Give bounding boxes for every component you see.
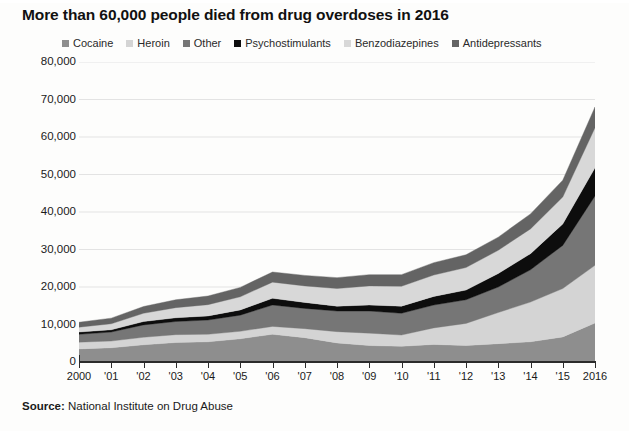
legend-label: Other xyxy=(194,37,222,49)
x-axis-tick xyxy=(79,362,80,368)
x-axis-tick-label: '02 xyxy=(136,370,150,382)
x-axis-tick-label: '12 xyxy=(459,370,473,382)
legend-item-antidepressants[interactable]: Antidepressants xyxy=(452,37,542,49)
y-axis-tick-label: 60,000 xyxy=(18,131,76,143)
source-note: Source: National Institute on Drug Abuse xyxy=(22,400,233,412)
x-axis-tick-label: '07 xyxy=(298,370,312,382)
stacked-area-svg xyxy=(79,62,595,362)
x-axis-tick-label: '05 xyxy=(233,370,247,382)
chart-legend: CocaineHeroinOtherPsychostimulantsBenzod… xyxy=(62,37,542,49)
legend-label: Psychostimulants xyxy=(245,37,331,49)
x-axis-tick-label: '11 xyxy=(427,370,441,382)
legend-item-benzodiazepines[interactable]: Benzodiazepines xyxy=(344,37,439,49)
legend-label: Cocaine xyxy=(73,37,113,49)
plot-area xyxy=(79,62,595,362)
legend-swatch-icon xyxy=(452,40,459,47)
x-axis-tick xyxy=(144,362,145,368)
source-text: National Institute on Drug Abuse xyxy=(65,400,233,412)
x-axis-tick xyxy=(498,362,499,368)
legend-label: Heroin xyxy=(137,37,169,49)
x-axis-tick xyxy=(369,362,370,368)
x-axis: 2000'01'02'03'04'05'06'07'08'09'10'11'12… xyxy=(79,362,595,388)
y-axis-tick-label: 10,000 xyxy=(18,319,76,331)
x-axis-tick-label: 2016 xyxy=(583,370,607,382)
x-axis-tick-label: '13 xyxy=(491,370,505,382)
x-axis-tick xyxy=(563,362,564,368)
x-axis-tick xyxy=(273,362,274,368)
y-axis-tick-label: 70,000 xyxy=(18,94,76,106)
legend-swatch-icon xyxy=(344,40,351,47)
legend-swatch-icon xyxy=(234,40,241,47)
area-series-group xyxy=(79,107,595,362)
legend-item-heroin[interactable]: Heroin xyxy=(126,37,169,49)
legend-label: Antidepressants xyxy=(463,37,542,49)
x-axis-tick xyxy=(595,362,596,368)
x-axis-tick xyxy=(531,362,532,368)
source-label: Source: xyxy=(22,400,65,412)
x-axis-tick xyxy=(176,362,177,368)
legend-swatch-icon xyxy=(183,40,190,47)
x-axis-tick xyxy=(208,362,209,368)
y-axis: 010,00020,00030,00040,00050,00060,00070,… xyxy=(10,0,76,431)
x-axis-tick-label: '10 xyxy=(394,370,408,382)
x-axis-tick xyxy=(402,362,403,368)
x-axis-tick xyxy=(466,362,467,368)
x-axis-tick-label: '03 xyxy=(169,370,183,382)
top-rule xyxy=(0,0,629,3)
x-axis-tick-label: '15 xyxy=(556,370,570,382)
y-axis-tick-label: 80,000 xyxy=(18,56,76,68)
x-axis-tick xyxy=(240,362,241,368)
y-axis-tick-label: 0 xyxy=(18,356,76,368)
chart-figure: More than 60,000 people died from drug o… xyxy=(0,0,629,431)
x-axis-tick xyxy=(305,362,306,368)
legend-item-psychostimulants[interactable]: Psychostimulants xyxy=(234,37,331,49)
legend-item-other[interactable]: Other xyxy=(183,37,222,49)
y-axis-tick-label: 20,000 xyxy=(18,281,76,293)
legend-label: Benzodiazepines xyxy=(355,37,439,49)
chart-title: More than 60,000 people died from drug o… xyxy=(22,6,449,24)
x-axis-tick xyxy=(434,362,435,368)
x-axis-tick-label: '14 xyxy=(523,370,537,382)
x-axis-tick xyxy=(111,362,112,368)
y-axis-tick-label: 50,000 xyxy=(18,169,76,181)
x-axis-tick-label: '01 xyxy=(104,370,118,382)
y-axis-tick-label: 30,000 xyxy=(18,244,76,256)
x-axis-tick-label: '04 xyxy=(201,370,215,382)
legend-swatch-icon xyxy=(126,40,133,47)
x-axis-tick-label: '09 xyxy=(362,370,376,382)
x-axis-tick-label: '06 xyxy=(265,370,279,382)
x-axis-tick xyxy=(337,362,338,368)
x-axis-tick-label: '08 xyxy=(330,370,344,382)
x-axis-tick-label: 2000 xyxy=(67,370,91,382)
y-axis-tick-label: 40,000 xyxy=(18,206,76,218)
